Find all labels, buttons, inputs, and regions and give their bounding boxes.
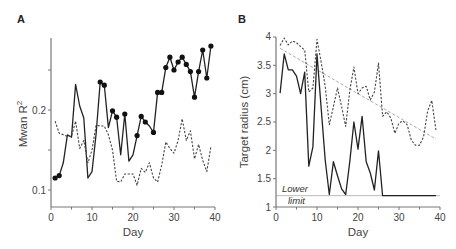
panel-a-y-axis-title: Mwan R2 [15,100,29,147]
panel-a-x-axis-title: Day [123,226,144,238]
y-tick-label: 0.1 [32,185,46,196]
lower-limit-label-line1: Lower [282,183,309,194]
y-tick-label: 4 [265,31,271,42]
panel-b-chart: B 01020304011.522.533.54 Lower limit Day… [238,13,446,238]
panel-a-plot-area [53,43,214,185]
data-point-marker [184,62,189,67]
data-point-marker [167,55,172,60]
x-tick-label: 0 [48,212,54,223]
x-tick-label: 30 [168,212,180,223]
data-point-marker [208,43,213,48]
y-tick-label: 0.2 [32,105,46,116]
data-point-marker [122,111,127,116]
y-tick-label: 1.5 [257,173,271,184]
panel-b-y-axis-title: Target radius (cm) [238,76,250,169]
data-point-marker [57,173,62,178]
x-tick-label: 40 [434,212,446,223]
panel-b-x-axis-title: Day [348,226,369,238]
y-tick-label: 3 [265,88,271,99]
x-tick-label: 10 [311,212,323,223]
data-point-marker [98,79,103,84]
data-point-marker [139,114,144,119]
x-tick-label: 20 [127,212,139,223]
panel-b-plot-area [276,38,440,196]
x-tick-label: 0 [273,212,279,223]
y-tick-label: 2 [265,145,271,156]
data-point-marker [204,75,209,80]
data-point-marker [102,83,107,88]
panel-a-y-title-sup: 2 [15,100,24,105]
data-point-marker [135,133,140,138]
panel-a-chart: A 0102030400.10.2 Day Mwan R2 [15,13,221,238]
x-tick-label: 20 [352,212,364,223]
panel-b-label: B [238,13,246,25]
data-point-marker [192,95,197,100]
y-tick-label: 1 [265,202,271,213]
figure: A 0102030400.10.2 Day Mwan R2 B 01020304… [0,0,456,249]
data-point-marker [163,65,168,70]
y-tick-label: 3.5 [257,60,271,71]
data-point-marker [159,90,164,95]
y-tick-label: 2.5 [257,116,271,127]
data-point-marker [188,69,193,74]
lower-limit-label-line2: limit [288,195,305,206]
data-point-marker [110,108,115,113]
x-tick-label: 30 [393,212,405,223]
data-point-marker [200,47,205,52]
data-point-marker [151,130,156,135]
panel-a-label: A [17,13,25,25]
x-tick-label: 40 [209,212,221,223]
data-point-marker [180,55,185,60]
series-dashed-line [280,38,436,145]
x-tick-label: 10 [86,212,98,223]
data-point-marker [171,67,176,72]
data-point-marker [114,115,119,120]
data-point-marker [176,59,181,64]
data-point-marker [196,69,201,74]
panel-a-y-title-base: Mwan R [17,105,29,147]
data-point-marker [143,119,148,124]
